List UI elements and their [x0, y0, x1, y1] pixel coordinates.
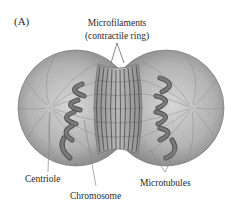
right-centriole: [188, 104, 196, 112]
contractile-ring-label: (contractile ring): [85, 31, 149, 42]
microfilaments-label: Microfilaments: [88, 18, 147, 28]
chromosome-label: Chromosome: [70, 191, 121, 201]
contractile-ring: [93, 64, 143, 154]
panel-label: (A): [14, 15, 30, 28]
cell-division-diagram: (A) Microfilaments (contractile ring): [0, 0, 243, 209]
left-centriole: [46, 104, 54, 112]
microfilaments-leader: [111, 43, 124, 63]
centriole-label: Centriole: [25, 174, 60, 184]
microtubules-label: Microtubules: [140, 178, 191, 188]
